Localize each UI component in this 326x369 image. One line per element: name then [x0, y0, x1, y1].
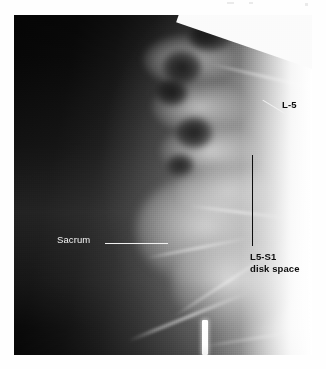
- figure-page: Sacrum L-5 L5-S1 disk space: [0, 0, 326, 369]
- annotation-leader-sacrum: [105, 243, 168, 244]
- annotation-label-sacrum: Sacrum: [57, 234, 90, 245]
- overexposed-margin: [14, 15, 312, 355]
- scan-artifact: [249, 2, 253, 4]
- radiograph-image: Sacrum L-5 L5-S1 disk space: [14, 15, 312, 355]
- radiopaque-marker: [202, 320, 208, 355]
- scan-artifact: [305, 3, 308, 6]
- annotation-label-l5: L-5: [282, 99, 297, 110]
- annotation-label-disk-space-line2: disk space: [250, 263, 300, 274]
- annotation-leader-disk-space: [252, 155, 253, 246]
- annotation-label-disk-space-line1: L5-S1: [250, 251, 276, 262]
- scan-artifact: [227, 2, 234, 4]
